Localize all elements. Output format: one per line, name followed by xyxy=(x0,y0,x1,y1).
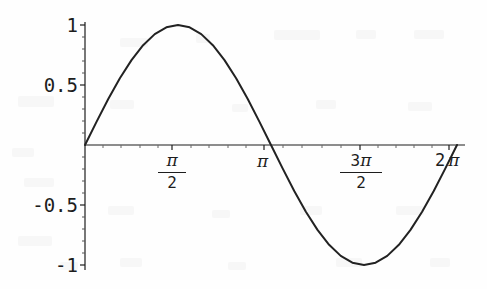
x-tick-label-pi-over-2: π 2 xyxy=(158,152,186,192)
plot-canvas xyxy=(0,0,487,289)
x-tick-denominator-3pi-over-2: 2 xyxy=(340,174,382,192)
x-tick-symbol-pi: π xyxy=(445,150,459,170)
y-tick-label-0_5: 0.5 xyxy=(8,76,78,95)
x-tick-denominator-pi-over-2: 2 xyxy=(158,174,186,192)
y-tick-label-neg0_5: -0.5 xyxy=(0,196,78,215)
x-tick-numerator-pi-over-2: π xyxy=(158,152,186,171)
plot-figure: 1 0.5 -0.5 -1 π 2 π 3π 2 2π xyxy=(0,0,487,289)
x-tick-label-3pi-over-2: 3π 2 xyxy=(340,152,382,192)
x-major-ticks xyxy=(172,145,449,150)
x-tick-numerator-3pi-over-2: 3π xyxy=(340,152,382,171)
x-tick-label-pi: π xyxy=(257,153,268,170)
y-tick-label-neg1: -1 xyxy=(10,256,78,275)
y-tick-label-1: 1 xyxy=(18,16,78,35)
x-tick-label-2pi: 2π xyxy=(435,152,459,169)
x-tick-coefficient-2pi: 2 xyxy=(435,150,445,170)
